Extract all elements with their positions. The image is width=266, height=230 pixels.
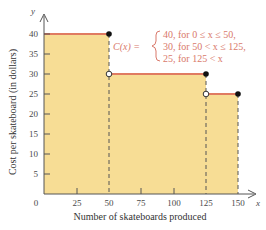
open-point-50-30 [106,71,112,77]
closed-point-50-40 [106,31,112,37]
closed-point-150-25 [235,91,241,97]
case-3: 25, for 125 < x [163,53,223,64]
x-axis-label: Number of skateboards produced [73,211,206,222]
y-axis-label: Cost per skateboard (in dollars) [7,49,19,175]
y-tick-25: 25 [29,89,39,99]
y-tick-5: 5 [34,169,39,179]
y-axis-symbol: y [30,6,35,16]
step-function-chart: 40 35 30 25 20 15 10 5 y 0 25 50 75 100 … [0,0,266,230]
x-tick-25: 25 [73,198,83,208]
x-tick-125: 125 [199,198,213,208]
case-2: 30, for 50 < x ≤ 125, [163,41,246,52]
closed-point-125-30 [203,71,209,77]
y-tick-10: 10 [29,149,39,159]
function-name: C(x) = [113,41,140,53]
y-tick-30: 30 [29,69,39,79]
y-tick-35: 35 [29,49,39,59]
x-tick-0: 0 [34,198,39,208]
y-tick-20: 20 [29,109,39,119]
x-tick-150: 150 [231,198,245,208]
y-tick-40: 40 [29,29,39,39]
y-tick-15: 15 [29,129,39,139]
case-1: 40, for 0 ≤ x ≤ 50, [163,29,236,40]
x-tick-50: 50 [105,198,115,208]
x-axis-symbol: x [255,198,260,208]
x-tick-75: 75 [137,198,147,208]
x-tick-100: 100 [167,198,181,208]
brace-icon [152,31,160,61]
open-point-125-25 [203,91,209,97]
